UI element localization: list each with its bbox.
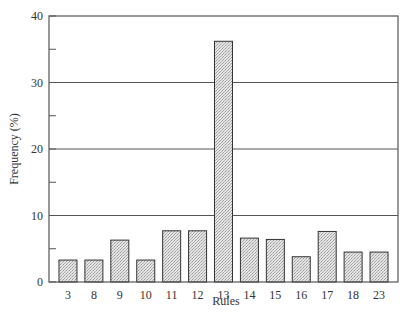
x-tick-label: 23: [373, 288, 385, 302]
bars: [59, 41, 388, 282]
x-tick-label: 15: [269, 288, 281, 302]
x-tick-label: 16: [295, 288, 307, 302]
x-tick-label: 17: [321, 288, 333, 302]
x-tick-label: 18: [347, 288, 359, 302]
bar-rule-9: [111, 240, 129, 282]
bar-rule-13: [215, 41, 233, 282]
bar-rule-8: [85, 260, 103, 282]
x-tick-label: 12: [192, 288, 204, 302]
y-axis-ticks: 010203040: [31, 9, 56, 289]
bar-rule-15: [266, 239, 284, 282]
y-tick-label: 30: [31, 76, 43, 90]
y-tick-label: 20: [31, 142, 43, 156]
y-tick-label: 10: [31, 209, 43, 223]
bar-rule-10: [137, 260, 155, 282]
x-tick-label: 14: [243, 288, 255, 302]
y-tick-label: 0: [37, 275, 43, 289]
x-axis-title: Rules: [212, 294, 240, 308]
y-axis-title: Frequency (%): [7, 113, 21, 185]
bar-chart: 010203040 38910111213141516171823 Rules …: [0, 0, 408, 326]
bar-rule-11: [163, 231, 181, 282]
bar-rule-18: [344, 252, 362, 282]
y-tick-label: 40: [31, 9, 43, 23]
bar-rule-17: [318, 231, 336, 282]
bar-rule-23: [370, 252, 388, 282]
x-tick-label: 3: [65, 288, 71, 302]
x-tick-label: 10: [140, 288, 152, 302]
bar-rule-14: [240, 238, 258, 282]
bar-rule-3: [59, 260, 77, 282]
bar-rule-16: [292, 257, 310, 282]
x-tick-label: 8: [91, 288, 97, 302]
x-tick-label: 11: [166, 288, 178, 302]
bar-rule-12: [189, 231, 207, 282]
x-tick-label: 9: [117, 288, 123, 302]
